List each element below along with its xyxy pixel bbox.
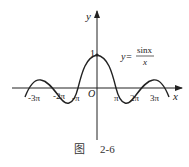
peak-point — [95, 53, 98, 56]
x-tick-2pi: 2π — [130, 93, 140, 103]
figure: y x O 1 -3π -2π -π π 2π 3π y= sinx x 图 2… — [0, 0, 189, 167]
y-axis-label: y — [85, 10, 91, 22]
x-tick-negpi: -π — [72, 93, 80, 103]
x-tick-3pi: 3π — [150, 93, 160, 103]
x-tick-neg3pi: -3π — [28, 93, 40, 103]
caption-prefix: 图 — [74, 143, 85, 155]
x-tick-pi: π — [114, 93, 119, 103]
caption-number: 2-6 — [100, 143, 115, 155]
x-axis-label: x — [172, 90, 178, 102]
origin-label: O — [88, 88, 95, 99]
x-tick-neg2pi: -2π — [53, 91, 65, 101]
function-numerator: sinx — [137, 45, 153, 55]
y-tick-1: 1 — [90, 48, 95, 59]
function-lhs: y= — [120, 51, 132, 62]
function-denominator: x — [142, 57, 147, 67]
figure-caption: 图 2-6 — [0, 140, 189, 156]
